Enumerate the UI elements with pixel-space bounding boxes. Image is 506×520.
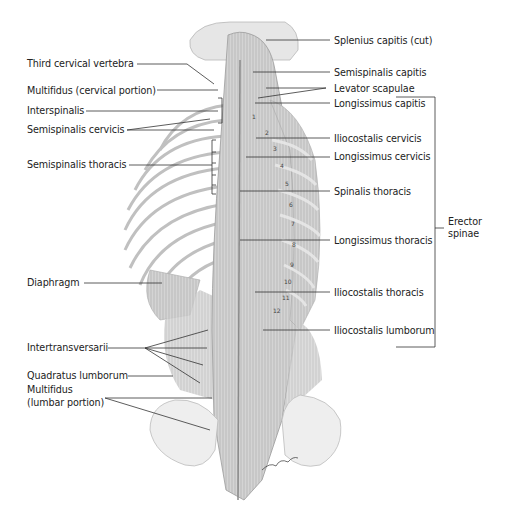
label-iliocostalis-cervicis: Iliocostalis cervicis <box>334 133 422 144</box>
rib-number: 8 <box>292 241 296 248</box>
label-interspinalis: Interspinalis <box>27 105 84 116</box>
rib-number: 11 <box>282 294 290 301</box>
rib-number: 1 <box>252 113 256 120</box>
rib-number: 9 <box>290 261 294 268</box>
label-spinalis-thoracis: Spinalis thoracis <box>334 186 411 197</box>
label-quadratus-lumborum: Quadratus lumborum <box>27 370 128 381</box>
rib-number: 6 <box>289 201 293 208</box>
rib-number: 2 <box>265 129 269 136</box>
label-longissimus-cervicis: Longissimus cervicis <box>334 151 430 162</box>
rib-number: 12 <box>273 307 281 314</box>
label-semispinalis-thoracis: Semispinalis thoracis <box>27 159 126 170</box>
label-intertransversarii: Intertransversarii <box>27 342 108 353</box>
label-levator-scapulae: Levator scapulae <box>334 83 414 94</box>
label-iliocostalis-lumborum: Iliocostalis lumborum <box>334 325 435 336</box>
label-splenius-capitis: Splenius capitis (cut) <box>334 35 432 46</box>
left-ribcage <box>125 105 228 300</box>
right-ilium <box>282 395 341 466</box>
label-longissimus-capitis: Longissimus capitis <box>334 98 425 109</box>
rib-number: 7 <box>291 220 295 227</box>
left-ilium <box>150 400 218 466</box>
label-erector-spinae-line2: spinae <box>448 228 479 239</box>
rib-number: 3 <box>273 145 277 152</box>
anatomy-illustration <box>0 0 506 520</box>
label-semispinalis-capitis: Semispinalis capitis <box>334 67 426 78</box>
label-third-cervical-vertebra: Third cervical vertebra <box>27 58 134 69</box>
label-diaphragm: Diaphragm <box>27 277 79 288</box>
label-multifidus-lumbar: Multifidus <box>27 384 73 395</box>
anatomy-diagram: 1 2 3 4 5 6 7 8 9 10 11 12 Third cervica… <box>0 0 506 520</box>
label-semispinalis-cervicis: Semispinalis cervicis <box>27 124 124 135</box>
rib-number: 5 <box>285 180 289 187</box>
rib-number: 4 <box>280 162 284 169</box>
label-erector-spinae-line1: Erector <box>448 216 482 227</box>
rib-number: 10 <box>284 278 292 285</box>
label-multifidus-cervical: Multifidus (cervical portion) <box>27 85 156 96</box>
label-multifidus-lumbar-sub: (lumbar portion) <box>27 397 104 408</box>
label-longissimus-thoracis: Longissimus thoracis <box>334 235 433 246</box>
label-iliocostalis-thoracis: Iliocostalis thoracis <box>334 287 424 298</box>
